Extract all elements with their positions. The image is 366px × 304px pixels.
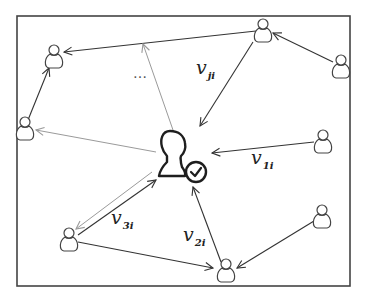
edge-center-to-E xyxy=(36,130,156,152)
check-badge-icon xyxy=(186,162,206,182)
verified-user-icon xyxy=(159,131,206,182)
edge-E-to-A xyxy=(28,68,49,120)
edge-center-to-B xyxy=(143,44,173,130)
person-icon-D xyxy=(314,130,331,153)
edge-B-to-center-vji xyxy=(200,42,253,126)
edge-label-vji: vji xyxy=(196,56,215,81)
person-icon-G xyxy=(217,259,234,282)
edge-D-to-center-v1i xyxy=(212,142,314,153)
edge-B-to-A xyxy=(64,31,256,52)
influence-network-diagram: … vji v1i v2i v3i xyxy=(0,0,366,304)
edge-label-v2i: v2i xyxy=(183,223,206,248)
person-icon-E xyxy=(16,117,33,140)
person-icon-A xyxy=(45,45,62,68)
edge-H-to-G xyxy=(237,221,314,268)
edge-F-to-G xyxy=(78,242,213,268)
person-icon-C xyxy=(332,55,349,78)
person-icon-H xyxy=(313,205,330,228)
edge-C-to-B xyxy=(273,33,333,62)
edge-G-to-center-v2i xyxy=(193,187,221,262)
ellipsis: … xyxy=(133,65,147,81)
edge-label-v3i: v3i xyxy=(111,206,134,231)
edge-label-v1i: v1i xyxy=(251,146,274,171)
person-icon-B xyxy=(254,19,271,42)
person-icon-F xyxy=(60,228,77,251)
